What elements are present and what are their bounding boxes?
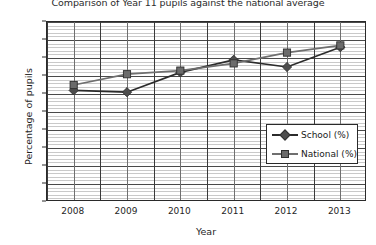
data-point-marker [70, 81, 77, 88]
data-point-marker [282, 62, 291, 71]
legend-marker [281, 150, 289, 158]
series-national [70, 42, 344, 89]
legend-marker [279, 129, 290, 140]
legend-entry-national: National (%) [267, 144, 357, 164]
series-line [74, 45, 341, 85]
legend-entry-school: School (%) [267, 125, 357, 145]
data-point-marker [123, 71, 130, 78]
data-series-layer [47, 22, 367, 202]
x-axis-tick-label: 2012 [275, 206, 298, 216]
x-axis-tick-label: 2009 [115, 206, 138, 216]
y-axis-title: Percentage of pupils [23, 47, 34, 187]
data-point-marker [337, 42, 344, 49]
series-line [74, 47, 341, 92]
chart-title: Comparison of Year 11 pupils against the… [0, 0, 376, 8]
x-axis-tick-label: 2008 [61, 206, 84, 216]
x-axis-title: Year [46, 226, 366, 237]
legend-swatch-national [272, 148, 298, 160]
legend-label-school: School (%) [301, 130, 349, 140]
chart-legend: School (%) National (%) [266, 124, 358, 164]
data-point-marker [283, 49, 290, 56]
x-axis-tick-label: 2010 [168, 206, 191, 216]
legend-label-national: National (%) [301, 149, 357, 159]
data-point-marker [122, 88, 131, 97]
x-axis-tick-label: 2013 [328, 206, 351, 216]
data-point-marker [230, 60, 237, 67]
chart-container: Comparison of Year 11 pupils against the… [0, 0, 376, 245]
legend-swatch-school [272, 129, 298, 141]
data-point-marker [177, 67, 184, 74]
plot-area [46, 21, 366, 201]
x-axis-tick-label: 2011 [221, 206, 244, 216]
